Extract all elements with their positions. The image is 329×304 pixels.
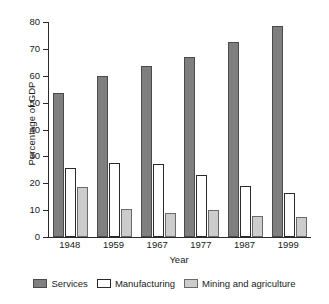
bar-services-1977 (184, 57, 195, 237)
bar-manufacturing-1967 (153, 164, 164, 237)
y-axis-tick-label: 40 (29, 124, 40, 135)
y-axis-tick: 0 (43, 237, 49, 238)
legend-item-services: Services (33, 278, 87, 289)
legend-label-services: Services (51, 278, 87, 289)
x-axis-title: Year (48, 254, 310, 265)
bar-group-1948 (49, 22, 93, 237)
bar-manufacturing-1959 (109, 163, 120, 237)
x-axis-tick-label-1948: 1948 (48, 239, 92, 250)
bar-manufacturing-1977 (196, 175, 207, 237)
bar-group-1977 (180, 22, 224, 237)
y-axis-tick-label: 80 (29, 16, 40, 27)
bar-services-1987 (228, 42, 239, 237)
y-axis-tick-label: 10 (29, 204, 40, 215)
legend-label-mining: Mining and agriculture (202, 278, 295, 289)
plot-area: 01020304050607080 (48, 22, 311, 238)
bar-group-1999 (267, 22, 311, 237)
bar-services-1959 (97, 76, 108, 237)
x-axis-tick-label-1967: 1967 (135, 239, 179, 250)
legend-swatch-manufacturing-icon (97, 279, 111, 288)
y-axis-tick-label: 60 (29, 70, 40, 81)
bar-services-1948 (53, 93, 64, 237)
chart-legend: ServicesManufacturingMining and agricult… (0, 278, 329, 289)
y-axis-tick-label: 70 (29, 43, 40, 54)
bar-mining-1967 (165, 213, 176, 237)
bar-mining-1977 (208, 210, 219, 237)
y-axis-tick-label: 50 (29, 97, 40, 108)
bar-manufacturing-1948 (65, 168, 76, 237)
y-axis-tick-label: 0 (35, 231, 40, 242)
bar-mining-1959 (121, 209, 132, 237)
legend-item-manufacturing: Manufacturing (97, 278, 175, 289)
bar-manufacturing-1999 (284, 193, 295, 237)
bar-mining-1987 (252, 216, 263, 238)
bar-services-1967 (141, 66, 152, 237)
y-axis-tick-label: 20 (29, 177, 40, 188)
bar-group-1959 (93, 22, 137, 237)
legend-swatch-mining-icon (184, 279, 198, 288)
legend-label-manufacturing: Manufacturing (115, 278, 175, 289)
x-axis-tick-label-1977: 1977 (179, 239, 223, 250)
bar-services-1999 (272, 26, 283, 237)
x-axis-tick-labels: 194819591967197719871999 (48, 239, 310, 250)
bar-mining-1999 (296, 217, 307, 237)
bar-manufacturing-1987 (240, 186, 251, 237)
bar-group-1987 (224, 22, 268, 237)
x-axis-tick-label-1959: 1959 (92, 239, 136, 250)
bar-groups (49, 22, 311, 237)
x-axis-tick-label-1987: 1987 (223, 239, 267, 250)
legend-swatch-services-icon (33, 279, 47, 288)
bar-mining-1948 (77, 187, 88, 237)
bar-chart-figure: Percentage of GDP 01020304050607080 1948… (0, 0, 329, 304)
x-axis-tick-label-1999: 1999 (266, 239, 310, 250)
legend-item-mining: Mining and agriculture (184, 278, 295, 289)
bar-group-1967 (136, 22, 180, 237)
y-axis-tick-label: 30 (29, 150, 40, 161)
